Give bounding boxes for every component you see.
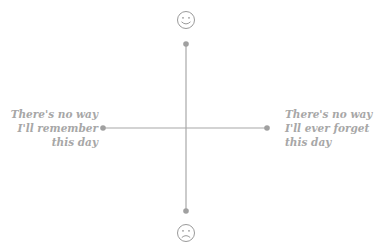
left-axis-label: There's no way I'll remember this day bbox=[11, 107, 98, 149]
axis-top-endpoint bbox=[183, 41, 189, 47]
axis-right-endpoint bbox=[264, 125, 270, 131]
right-axis-label: There's no way I'll ever forget this day bbox=[285, 107, 372, 149]
axis-left-endpoint bbox=[100, 125, 106, 131]
sad-face-icon bbox=[178, 225, 195, 242]
horizontal-axis bbox=[100, 125, 270, 131]
smiley-face-icon bbox=[178, 12, 195, 29]
axis-bottom-endpoint bbox=[183, 208, 189, 214]
